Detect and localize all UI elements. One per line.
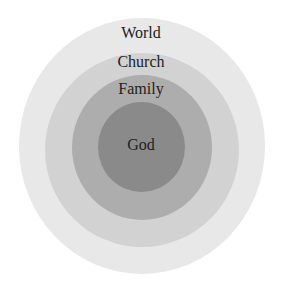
label-god: God	[0, 136, 282, 154]
label-family: Family	[0, 80, 282, 98]
label-world: World	[0, 24, 282, 42]
label-church: Church	[0, 53, 282, 71]
